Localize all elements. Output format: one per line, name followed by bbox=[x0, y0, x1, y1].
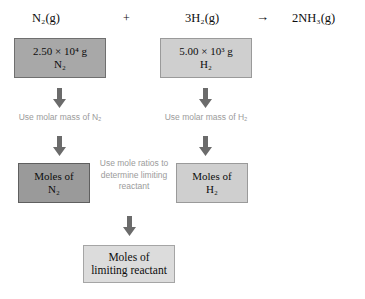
box-mass-of-n2: 2.50 × 10⁴ g N₂ bbox=[14, 38, 106, 78]
right-arrow-icon: → bbox=[256, 10, 269, 24]
box-moles-lr-detail: limiting reactant bbox=[91, 264, 167, 277]
equation-reactant-nitrogen: N₂(g) bbox=[32, 11, 60, 25]
box-moles-h2-species: H₂ bbox=[206, 183, 218, 196]
down-arrow-icon bbox=[52, 88, 67, 109]
stoichiometry-flowchart: N₂(g) + 3H₂(g) → 2NH₃(g) 2.50 × 10⁴ g N₂… bbox=[0, 0, 365, 299]
annotation-use-mole-ratios: Use mole ratios to determine limiting re… bbox=[97, 158, 171, 193]
box-moles-of-limiting-reactant: Moles of limiting reactant bbox=[83, 245, 175, 283]
annotation-use-molar-mass-h2: Use molar mass of H₂ bbox=[158, 112, 254, 123]
box-moles-of-h2: Moles of H₂ bbox=[176, 163, 248, 203]
box-moles-n2-label: Moles of bbox=[34, 170, 73, 183]
annotation-use-molar-mass-n2: Use molar mass of N₂ bbox=[12, 112, 108, 123]
down-arrow-icon bbox=[122, 216, 137, 237]
box-moles-n2-species: N₂ bbox=[48, 183, 60, 196]
box-mass-h2-value: 5.00 × 10³ g bbox=[179, 45, 233, 58]
box-mass-n2-value: 2.50 × 10⁴ g bbox=[33, 45, 87, 58]
box-mass-n2-species: N₂ bbox=[54, 58, 66, 71]
chemical-equation: N₂(g) + 3H₂(g) → 2NH₃(g) bbox=[0, 8, 365, 30]
down-arrow-icon bbox=[198, 136, 213, 157]
box-mass-of-h2: 5.00 × 10³ g H₂ bbox=[160, 38, 252, 78]
down-arrow-icon bbox=[52, 136, 67, 157]
box-moles-h2-label: Moles of bbox=[192, 170, 231, 183]
equation-product-ammonia: 2NH₃(g) bbox=[292, 11, 335, 25]
box-moles-lr-label: Moles of bbox=[108, 251, 149, 264]
box-moles-of-n2: Moles of N₂ bbox=[18, 163, 90, 203]
down-arrow-icon bbox=[198, 88, 213, 109]
equation-plus-sign: + bbox=[123, 11, 130, 25]
box-mass-h2-species: H₂ bbox=[200, 58, 212, 71]
equation-reactant-hydrogen: 3H₂(g) bbox=[185, 11, 219, 25]
